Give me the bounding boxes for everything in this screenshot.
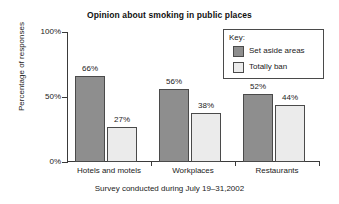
x-category-label: Hotels and motels: [67, 166, 151, 175]
legend-label: Set aside areas: [249, 46, 305, 55]
x-category-label: Restaurants: [235, 166, 319, 175]
chart-figure: Opinion about smoking in public places P…: [0, 0, 339, 204]
y-tick-mark: [62, 32, 68, 33]
bar: [107, 127, 137, 162]
chart-caption: Survey conducted during July 19–31,2002: [0, 184, 339, 193]
y-tick-label: 100%: [23, 27, 61, 36]
bar-value-label: 66%: [71, 64, 109, 73]
legend-title: Key:: [229, 33, 245, 42]
legend-box: Key: Set aside areasTotally ban: [223, 29, 324, 79]
bar: [159, 89, 189, 162]
y-tick-label: 0%: [23, 157, 61, 166]
legend-swatch: [233, 62, 244, 73]
x-category-label: Workplaces: [151, 166, 235, 175]
chart-title: Opinion about smoking in public places: [0, 10, 339, 20]
legend-label: Totally ban: [249, 62, 287, 71]
bar-value-label: 52%: [239, 82, 277, 91]
y-tick-label: 50%: [23, 92, 61, 101]
bar: [275, 105, 305, 162]
y-tick-mark: [62, 162, 68, 163]
bar-value-label: 27%: [103, 115, 141, 124]
group-separator-tick: [319, 161, 320, 166]
bar: [75, 76, 105, 162]
y-tick-mark: [62, 97, 68, 98]
bar: [191, 113, 221, 162]
bar-value-label: 44%: [271, 93, 309, 102]
y-axis-label: Percentage of responses: [17, 2, 26, 132]
legend-swatch: [233, 46, 244, 57]
bar-value-label: 56%: [155, 77, 193, 86]
bar-value-label: 38%: [187, 101, 225, 110]
bar: [243, 94, 273, 162]
